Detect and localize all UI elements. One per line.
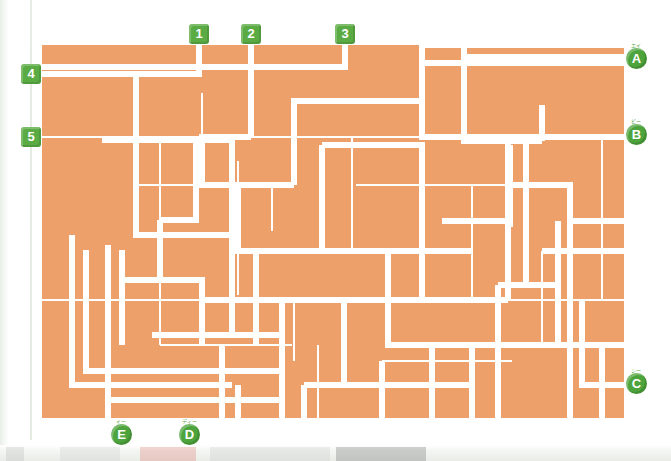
exit-a[interactable]: A — [626, 48, 647, 69]
scan-artifact-4 — [210, 447, 330, 461]
exit-c[interactable]: C — [626, 373, 647, 394]
entrance-2[interactable]: 2 — [241, 24, 261, 44]
maze-board[interactable] — [42, 45, 624, 418]
scan-artifact-2 — [60, 447, 120, 461]
furigana-e: イー — [106, 417, 136, 424]
exit-d[interactable]: D — [179, 424, 200, 445]
exit-b[interactable]: B — [626, 124, 647, 145]
entrance-4[interactable]: 4 — [21, 64, 41, 84]
furigana-c: シー — [621, 366, 651, 373]
page-left-edge — [0, 0, 9, 446]
scan-artifact-5 — [336, 447, 426, 461]
scanned-page: 1 2 3 4 5 エイ A ビー B シー C ディー D イー E — [0, 0, 671, 461]
entrance-1[interactable]: 1 — [189, 24, 209, 44]
maze-thick-lines — [42, 45, 624, 418]
entrance-3[interactable]: 3 — [335, 24, 355, 44]
furigana-b: ビー — [621, 117, 651, 124]
scan-artifact-1 — [6, 447, 24, 461]
furigana-d: ディー — [174, 417, 204, 424]
exit-e[interactable]: E — [111, 424, 132, 445]
entrance-5[interactable]: 5 — [21, 127, 41, 147]
furigana-a: エイ — [621, 41, 651, 48]
scan-artifact-3 — [140, 447, 196, 461]
